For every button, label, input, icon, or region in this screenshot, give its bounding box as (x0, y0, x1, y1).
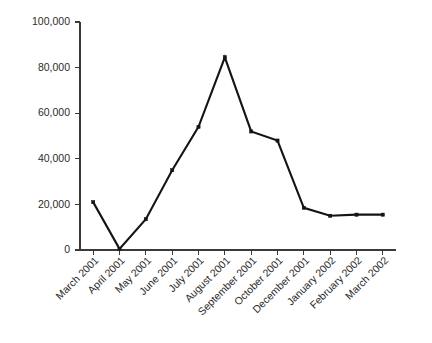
data-point-6 (250, 130, 253, 133)
y-tick-label-5: 100,000 (32, 15, 70, 27)
data-point-4 (197, 125, 200, 128)
series-line-path (93, 57, 383, 249)
y-tick-label-2: 40,000 (38, 152, 70, 164)
y-tick-label-3: 60,000 (38, 106, 70, 118)
y-tick-label-0: 0 (64, 243, 70, 255)
y-tick-label-1: 20,000 (38, 198, 70, 210)
x-axis-tick-labels: March 2001April 2001May 2001June 2001Jul… (53, 254, 390, 317)
data-point-11 (381, 213, 384, 216)
line-chart-figure: 020,00040,00060,00080,000100,000 March 2… (0, 0, 432, 343)
data-point-2 (144, 218, 147, 221)
y-axis-tick-marks (75, 22, 80, 250)
data-series-group (92, 56, 385, 251)
data-point-5 (223, 56, 226, 59)
data-point-7 (276, 139, 279, 142)
y-tick-label-4: 80,000 (38, 61, 70, 73)
data-point-9 (329, 214, 332, 217)
y-axis-tick-labels: 020,00040,00060,00080,000100,000 (32, 15, 70, 255)
x-axis-tick-marks (93, 250, 383, 255)
y-axis-group: 020,00040,00060,00080,000100,000 (32, 15, 80, 255)
x-axis-group: March 2001April 2001May 2001June 2001Jul… (53, 250, 396, 317)
data-point-1 (118, 247, 121, 250)
series-data-markers (92, 56, 385, 251)
data-point-0 (92, 201, 95, 204)
chart-plot-area: 020,00040,00060,00080,000100,000 March 2… (0, 0, 432, 343)
data-point-8 (302, 206, 305, 209)
data-point-3 (171, 169, 174, 172)
data-point-10 (355, 213, 358, 216)
